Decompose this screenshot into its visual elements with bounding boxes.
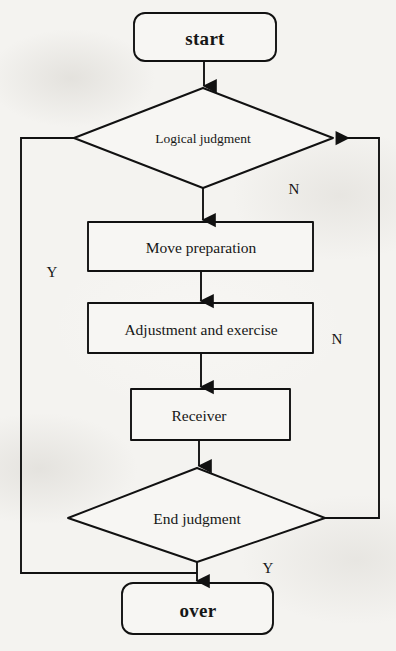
node-move-preparation-label: Move preparation (146, 240, 257, 256)
edge-label-logical-no: N (289, 182, 300, 197)
edge-label-end-yes: Y (263, 561, 274, 576)
node-over-label: over (179, 601, 216, 620)
node-logical-judgment-label: Logical judgment (155, 132, 251, 146)
edge-label-logical-yes: Y (47, 265, 58, 280)
node-end-judgment-label: End judgment (153, 511, 240, 527)
flowchart-page: start Logical judgment Move preparation … (0, 0, 396, 651)
edge-endjudgment-no-loop (325, 138, 379, 518)
node-start-label: start (185, 29, 224, 48)
node-receiver-label: Receiver (171, 408, 226, 424)
node-adjustment-and-exercise-label: Adjustment and exercise (124, 322, 277, 338)
edge-label-loop-no: N (332, 332, 343, 347)
